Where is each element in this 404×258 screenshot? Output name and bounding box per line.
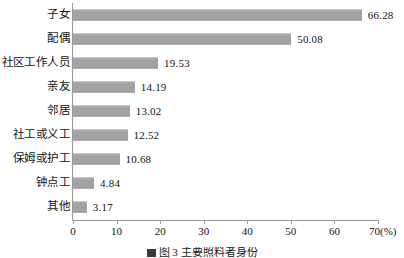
x-tick-label: 30 [198, 226, 209, 237]
category-label: 邻居 [47, 105, 70, 117]
bar-row: 社区工作人员19.53 [0, 51, 404, 75]
bar [73, 10, 362, 21]
category-label: 配偶 [47, 33, 70, 45]
bar-row: 钟点工4.84 [0, 171, 404, 195]
category-label: 其他 [47, 201, 70, 213]
x-tick-label: 10 [111, 226, 122, 237]
x-tick-label: 40 [242, 226, 253, 237]
category-label: 保姆或护工 [13, 153, 70, 165]
x-tick-label: 20 [155, 226, 166, 237]
category-label: 子女 [47, 9, 70, 21]
x-tick-label-with-unit: 70(%) [369, 226, 397, 237]
x-tick [378, 220, 379, 224]
bar-value-label: 3.17 [93, 202, 113, 213]
bar-value-label: 13.02 [136, 106, 162, 117]
category-label: 社区工作人员 [2, 57, 70, 69]
category-label: 亲友 [47, 81, 70, 93]
caption-marker-icon [147, 249, 156, 257]
x-tick [73, 220, 74, 224]
x-tick [291, 220, 292, 224]
bar [73, 34, 291, 45]
bar-row: 其他3.17 [0, 195, 404, 219]
bar-value-label: 50.08 [297, 34, 323, 45]
x-tick [117, 220, 118, 224]
bar-value-label: 12.52 [134, 130, 160, 141]
bar-chart: 子女66.28配偶50.08社区工作人员19.53亲友14.19邻居13.02社… [0, 0, 404, 258]
bar [73, 202, 87, 213]
bar-row: 邻居13.02 [0, 99, 404, 123]
x-axis-line [72, 220, 379, 221]
caption-text: 图 3 主要照料者身份 [159, 247, 258, 258]
bar-value-label: 14.19 [141, 82, 167, 93]
x-tick-label: 0 [70, 226, 76, 237]
x-tick [247, 220, 248, 224]
bar-row: 社工或义工12.52 [0, 123, 404, 147]
bar [73, 178, 94, 189]
bar-row: 配偶50.08 [0, 27, 404, 51]
bar-row: 子女66.28 [0, 3, 404, 27]
category-label: 钟点工 [36, 177, 70, 189]
bar-value-label: 66.28 [368, 10, 394, 21]
bar [73, 82, 135, 93]
bar-row: 亲友14.19 [0, 75, 404, 99]
bar-value-label: 4.84 [100, 178, 120, 189]
x-tick [204, 220, 205, 224]
bar-value-label: 19.53 [164, 58, 190, 69]
bar-row: 保姆或护工10.68 [0, 147, 404, 171]
x-tick-label: 50 [285, 226, 296, 237]
category-label: 社工或义工 [13, 129, 70, 141]
figure-caption: 图 3 主要照料者身份 [0, 247, 404, 258]
x-tick-label: 60 [329, 226, 340, 237]
bar-value-label: 10.68 [126, 154, 152, 165]
bar [73, 106, 130, 117]
x-tick [160, 220, 161, 224]
bar [73, 154, 120, 165]
x-tick [334, 220, 335, 224]
bar [73, 58, 158, 69]
bar [73, 130, 128, 141]
